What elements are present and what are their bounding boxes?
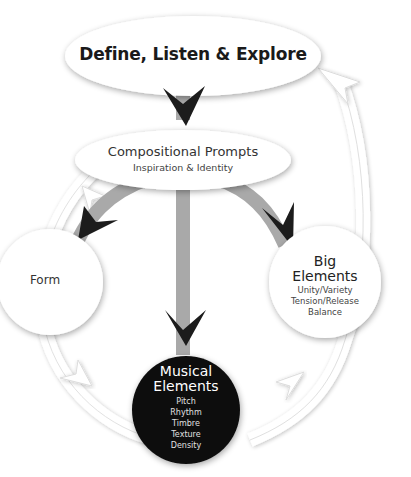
big-elements-title-line2: Elements	[275, 269, 375, 284]
musical-elements-item: Rhythm	[136, 407, 236, 419]
node-compositional-prompts	[75, 130, 291, 190]
form-node-label: Form	[10, 273, 80, 287]
musical-elements-item: Timbre	[136, 418, 236, 430]
prompts-node-title: Compositional Prompts	[83, 144, 283, 159]
top-node-label: Define, Listen & Explore	[65, 44, 321, 64]
big-elements-item: Balance	[275, 307, 375, 318]
cycle-arrowhead-bottom-right-icon	[276, 372, 304, 400]
big-elements-item: Unity/Variety	[275, 285, 375, 296]
musical-elements-item: Density	[136, 440, 236, 452]
musical-elements-item: Pitch	[136, 396, 236, 408]
musical-elements-item: Texture	[136, 429, 236, 441]
prompts-node-subtitle: Inspiration & Identity	[83, 162, 283, 173]
musical-elements-title-line1: Musical	[136, 364, 236, 379]
big-elements-item: Tension/Release	[275, 296, 375, 307]
musical-elements-title-line2: Elements	[136, 379, 236, 394]
big-elements-title-line1: Big	[275, 254, 375, 269]
gray-connector-stems	[70, 80, 285, 355]
